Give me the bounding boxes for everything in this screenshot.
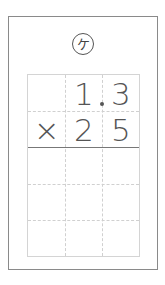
answer-cell[interactable] [65,221,103,258]
multiply-operator: × [28,112,66,149]
multiplicand-digit-3: 3 [102,76,140,113]
calculation-grid: 1 3 × 2 5 [27,74,140,257]
problem-label-badge: ケ [72,33,94,55]
answer-cell[interactable] [102,221,140,258]
answer-cell[interactable] [102,185,140,222]
multiplier-digit-2: 5 [102,112,140,149]
decimal-point [100,102,104,106]
multiplicand-digit-1 [28,75,66,112]
multiplier-digit-1: 2 [65,112,103,149]
answer-cell[interactable] [65,148,103,185]
answer-cell[interactable] [28,148,66,185]
answer-cell[interactable] [65,185,103,222]
answer-cell[interactable] [28,221,66,258]
answer-cell[interactable] [102,148,140,185]
multiplicand-digit-2: 1 [65,76,103,113]
problem-label: ケ [77,38,90,51]
answer-cell[interactable] [28,185,66,222]
